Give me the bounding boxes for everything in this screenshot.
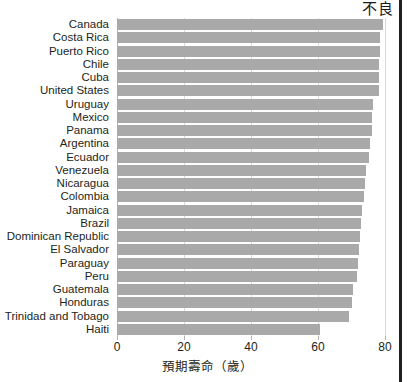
x-tick-label: 80 [378,340,391,354]
bar-row [117,243,385,256]
bar-row [117,58,385,71]
bar [117,72,379,83]
bar [117,19,383,30]
y-tick-label: Haiti [86,323,109,335]
bar [117,218,361,229]
bar [117,178,365,189]
y-tick-label: Jamaica [66,204,109,216]
y-tick-label: Cuba [82,71,110,83]
x-tick-label: 20 [177,340,190,354]
x-tick-label: 0 [114,340,121,354]
bar-row [117,270,385,283]
y-tick-label: Chile [83,58,109,70]
x-axis-title: 預期壽命（歲） [0,359,415,374]
y-tick-label: Colombia [60,190,109,202]
y-tick-label: El Salvador [50,243,109,255]
bar [117,112,372,123]
bar [117,59,379,70]
bar [117,244,359,255]
y-tick-label: Ecuador [66,151,109,163]
y-tick-label: Uruguay [66,98,109,110]
y-tick-label: Peru [85,270,109,282]
y-tick-label: Mexico [73,111,109,123]
gridline-80 [385,18,386,336]
top-right-annotation: 不良 [362,1,393,18]
bar-row [117,84,385,97]
x-tick-label: 40 [244,340,257,354]
bar-row [117,190,385,203]
y-tick-label: Venezuela [55,164,109,176]
bar [117,258,358,269]
bar [117,271,357,282]
y-tick-label: United States [40,84,109,96]
bar-row [117,283,385,296]
y-tick-label: Argentina [60,137,109,149]
bar-row [117,111,385,124]
bar-row [117,310,385,323]
y-tick-label: Costa Rica [53,31,109,43]
x-axis-tick-labels: 020406080 [0,340,415,356]
y-tick-label: Guatemala [53,283,109,295]
bar [117,125,372,136]
bar-row [117,164,385,177]
x-tick-label: 60 [311,340,324,354]
bar-row [117,257,385,270]
bar-row [117,18,385,31]
bar [117,284,353,295]
bar-row [117,204,385,217]
y-tick-label: Brazil [80,217,109,229]
y-tick-label: Canada [69,18,109,30]
y-tick-label: Nicaragua [57,177,109,189]
y-tick-label: Honduras [59,296,109,308]
bar-row [117,45,385,58]
bar [117,297,352,308]
y-tick-label: Panama [66,124,109,136]
bar [117,311,349,322]
y-tick-label: Trinidad and Tobago [5,310,109,322]
y-axis-tick-labels: CanadaCosta RicaPuerto RicoChileCubaUnit… [0,18,113,336]
bar [117,205,362,216]
bar-row [117,296,385,309]
right-edge-rule [399,0,402,382]
y-tick-label: Paraguay [60,257,109,269]
bar [117,46,380,57]
bar [117,191,364,202]
bar [117,99,373,110]
life-expectancy-bar-chart: 不良 CanadaCosta RicaPuerto RicoChileCubaU… [0,0,415,382]
bar [117,231,360,242]
bar [117,85,379,96]
bar [117,138,370,149]
bar-row [117,217,385,230]
bar [117,32,380,43]
bar-row [117,124,385,137]
bar [117,324,320,335]
bar [117,165,366,176]
y-tick-label: Puerto Rico [49,45,109,57]
bar-row [117,151,385,164]
bar-row [117,230,385,243]
bar-row [117,98,385,111]
plot-area [117,18,385,336]
bar-row [117,177,385,190]
bar-row [117,31,385,44]
bar-row [117,71,385,84]
bar [117,152,369,163]
bar-row [117,137,385,150]
y-tick-label: Dominican Republic [7,230,109,242]
bar-row [117,323,385,336]
